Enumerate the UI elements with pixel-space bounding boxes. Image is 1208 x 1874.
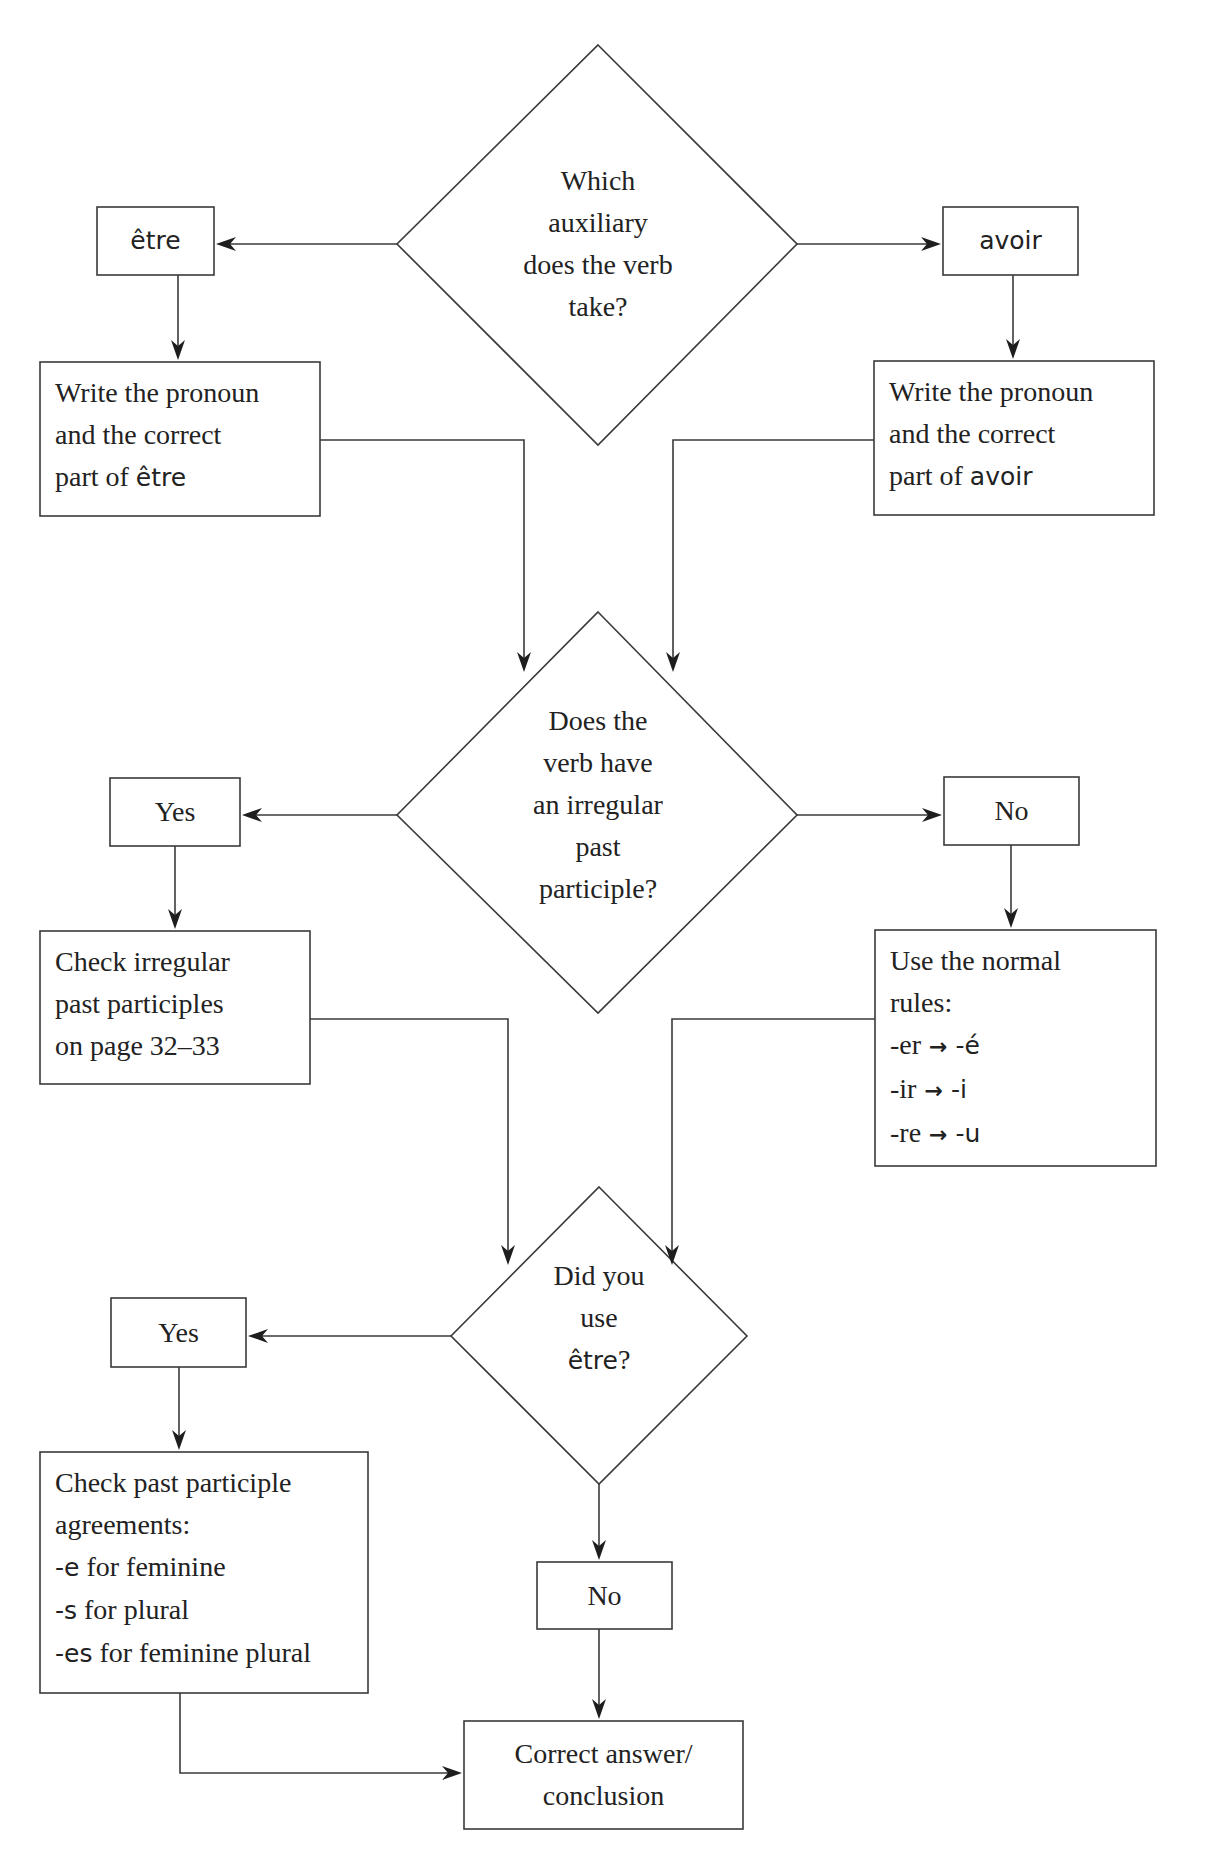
agreement-text: for feminine plural: [92, 1637, 310, 1668]
part-of-text: part of: [889, 460, 970, 491]
action-conclusion-line: Correct answer/: [514, 1733, 692, 1775]
etre-keyword: être: [136, 463, 186, 492]
action-write-avoir-line: and the correct: [889, 413, 1154, 455]
agreement-ending: -e: [55, 1553, 79, 1582]
decision-used-etre-line: Did you: [554, 1255, 645, 1297]
agreement-ending: -es: [55, 1639, 92, 1668]
decision-irregular-line: participle?: [539, 868, 657, 910]
rule-to: -i: [951, 1075, 967, 1104]
decision-auxiliary: Which auxiliary does the verb take?: [447, 150, 749, 338]
agreement-ending: -s: [55, 1596, 77, 1625]
question-mark: ?: [618, 1344, 630, 1375]
rule-from: -er: [890, 1029, 921, 1060]
right-arrow-icon: →: [921, 1034, 955, 1059]
decision-auxiliary-line: does the verb: [523, 244, 672, 286]
action-write-avoir-line: Write the pronoun: [889, 371, 1154, 413]
action-write-etre-line: part of être: [55, 456, 320, 499]
action-conclusion: Correct answer/ conclusion: [464, 1721, 743, 1829]
branch-etre-yes: Yes: [111, 1298, 246, 1367]
rule-from: -ir: [890, 1073, 916, 1104]
branch-avoir-label: avoir: [979, 220, 1042, 262]
action-write-etre-line: Write the pronoun: [55, 372, 320, 414]
decision-auxiliary-line: auxiliary: [548, 202, 648, 244]
action-check-irregular-line: past participles: [55, 983, 310, 1025]
action-write-avoir: Write the pronoun and the correct part o…: [874, 361, 1154, 515]
right-arrow-icon: →: [921, 1122, 955, 1147]
action-conclusion-line: conclusion: [543, 1775, 664, 1817]
branch-etre: être: [97, 207, 214, 275]
rule-row: -ir→-i: [890, 1068, 1156, 1112]
decision-irregular: Does the verb have an irregular past par…: [447, 692, 749, 918]
decision-auxiliary-line: Which: [561, 160, 636, 202]
branch-etre-label: être: [130, 220, 180, 262]
action-normal-rules-line: Use the normal: [890, 940, 1156, 982]
branch-irregular-yes: Yes: [110, 778, 240, 846]
etre-keyword: être: [568, 1346, 618, 1375]
rule-from: -re: [890, 1117, 921, 1148]
agreement-text: for plural: [77, 1594, 189, 1625]
branch-irregular-yes-label: Yes: [155, 791, 196, 833]
action-normal-rules: Use the normal rules: -er→-é -ir→-i -re→…: [875, 930, 1156, 1166]
agreement-text: for feminine: [79, 1551, 225, 1582]
branch-irregular-no-label: No: [994, 790, 1028, 832]
decision-used-etre-line: être?: [568, 1339, 631, 1382]
decision-used-etre-line: use: [580, 1297, 617, 1339]
branch-irregular-no: No: [944, 777, 1079, 845]
rule-row: -re→-u: [890, 1112, 1156, 1156]
right-arrow-icon: →: [916, 1078, 950, 1103]
rule-row: -er→-é: [890, 1024, 1156, 1068]
part-of-text: part of: [55, 461, 136, 492]
decision-irregular-line: Does the: [549, 700, 648, 742]
action-agreements-line: agreements:: [55, 1504, 368, 1546]
decision-irregular-line: an irregular: [533, 784, 663, 826]
branch-etre-yes-label: Yes: [158, 1312, 199, 1354]
agreement-row: -e for feminine: [55, 1546, 368, 1589]
action-check-irregular: Check irregular past participles on page…: [40, 931, 310, 1084]
agreement-row: -s for plural: [55, 1589, 368, 1632]
action-agreements-line: Check past participle: [55, 1462, 368, 1504]
branch-avoir: avoir: [943, 207, 1078, 275]
agreement-row: -es for feminine plural: [55, 1632, 368, 1675]
action-check-irregular-line: on page 32–33: [55, 1025, 310, 1067]
decision-used-etre: Did you use être?: [489, 1253, 709, 1383]
rule-to: -u: [956, 1119, 981, 1148]
action-agreements: Check past participle agreements: -e for…: [40, 1452, 368, 1693]
avoir-keyword: avoir: [970, 462, 1033, 491]
decision-irregular-line: verb have: [543, 742, 653, 784]
decision-irregular-line: past: [575, 826, 620, 868]
branch-etre-no: No: [537, 1562, 672, 1629]
rule-to: -é: [956, 1031, 980, 1060]
action-write-avoir-line: part of avoir: [889, 455, 1154, 498]
action-normal-rules-line: rules:: [890, 982, 1156, 1024]
action-write-etre: Write the pronoun and the correct part o…: [40, 362, 320, 516]
action-write-etre-line: and the correct: [55, 414, 320, 456]
branch-etre-no-label: No: [587, 1575, 621, 1617]
action-check-irregular-line: Check irregular: [55, 941, 310, 983]
decision-auxiliary-line: take?: [568, 286, 627, 328]
